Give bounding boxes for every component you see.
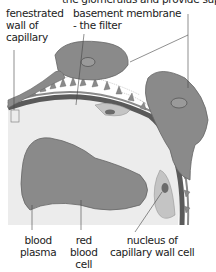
- nucleus-shape: [162, 183, 169, 193]
- nucleus-label: nucleus of capillary wall cell: [110, 234, 195, 258]
- red-blood-cell-label: red blood cell: [70, 234, 98, 270]
- fenestrated-wall-label: fenestrated wall of capillary: [6, 7, 64, 43]
- top-caption: the glomerulus and provide support: [62, 0, 216, 5]
- basement-membrane-label: basement membrane - the filter: [73, 7, 181, 31]
- blood-plasma-label: blood plasma: [20, 234, 56, 258]
